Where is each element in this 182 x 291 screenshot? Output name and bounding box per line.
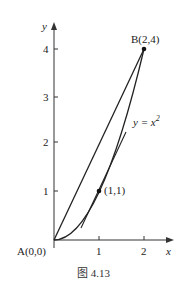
point-b-label: B(2,4) <box>131 33 160 46</box>
y-tick-label-4: 4 <box>43 43 49 55</box>
figure-caption: 图 4.13 <box>77 267 111 279</box>
point-a-label: A(0,0) <box>17 245 46 258</box>
point-p <box>97 189 102 194</box>
x-axis-label: x <box>165 245 171 257</box>
point-b <box>142 47 147 52</box>
x-tick-label-2: 2 <box>141 245 147 257</box>
y-tick-label-3: 3 <box>43 91 49 103</box>
y-axis-label: y <box>41 20 47 32</box>
chord-ab <box>54 49 144 240</box>
y-tick-label-1: 1 <box>43 185 49 197</box>
figure: y x 4 3 2 1 1 2 A(0,0) B(2,4) (1,1) y = … <box>0 0 182 291</box>
y-axis-arrow-icon <box>51 22 57 30</box>
point-p-label: (1,1) <box>104 184 125 197</box>
x-axis-arrow-icon <box>166 237 174 243</box>
tangent-line <box>81 132 126 228</box>
y-tick-label-2: 2 <box>43 136 49 148</box>
x-tick-label-1: 1 <box>96 245 102 257</box>
curve-label: y = x2 <box>132 114 160 128</box>
